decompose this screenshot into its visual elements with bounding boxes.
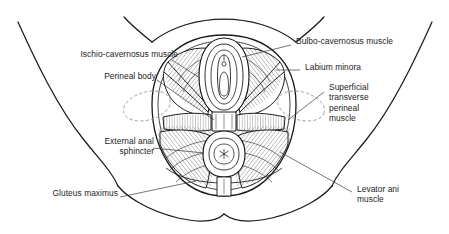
label-bulbo-cavernosus-muscle: Bulbo-cavernosus muscle — [296, 36, 393, 46]
label-line: Superficial — [329, 82, 369, 92]
anatomy-figure: Ischio-cavernosus muscle Perineal body E… — [0, 0, 449, 234]
label-ischio-cavernosus-muscle: Ischio-cavernosus muscle — [46, 49, 178, 59]
label-line: Bulbo-cavernosus muscle — [296, 36, 393, 46]
label-gluteus-maximus: Gluteus maximus — [18, 188, 118, 198]
label-line: muscle — [329, 113, 356, 123]
label-labium-minora: Labium minora — [305, 62, 361, 72]
urethral-orifice — [222, 62, 226, 66]
label-superficial-transverse-perineal-muscle: Superficialtransverseperinealmuscle — [329, 82, 369, 124]
label-line: Ischio-cavernosus muscle — [80, 49, 178, 59]
leader-levator-ani — [280, 152, 352, 192]
label-line: External anal — [104, 136, 154, 146]
label-line: muscle — [357, 194, 384, 204]
label-line: transverse — [329, 92, 369, 102]
body-outline-left-thigh — [18, 22, 118, 186]
label-external-anal-sphincter: External analsphincter — [50, 136, 154, 157]
leader-gluteus-maximus — [120, 181, 196, 197]
label-line: Labium minora — [305, 62, 361, 72]
label-line: Gluteus maximus — [53, 188, 118, 198]
label-line: Levator ani — [357, 184, 399, 194]
label-levator-ani-muscle: Levator animuscle — [357, 184, 399, 205]
vaginal-orifice — [220, 72, 229, 96]
label-line: Perineal body — [104, 71, 156, 81]
groin-crease-left — [124, 17, 152, 42]
label-line: perineal — [329, 103, 359, 113]
vulval-opening — [199, 38, 249, 116]
label-perineal-body: Perineal body — [46, 71, 156, 81]
label-line: sphincter — [120, 146, 154, 156]
